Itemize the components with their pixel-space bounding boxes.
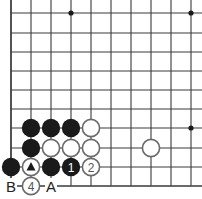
stones: 124	[2, 119, 160, 195]
star-point-icon	[188, 125, 193, 130]
white-stone-icon	[142, 139, 159, 156]
white-stone-4: 4	[22, 177, 39, 194]
black-stone	[42, 119, 60, 137]
white-stone-icon	[82, 119, 99, 136]
move-number: 4	[28, 180, 35, 194]
grid-lines	[11, 0, 202, 186]
black-stone-icon	[62, 119, 80, 137]
move-number: 1	[68, 161, 75, 175]
white-stone	[82, 139, 99, 156]
point-label-b: B	[6, 178, 16, 195]
black-stone-icon	[42, 119, 60, 137]
black-stone-icon	[2, 158, 20, 176]
black-stone-icon	[42, 158, 60, 176]
black-stone-icon	[22, 139, 40, 157]
white-stone	[142, 139, 159, 156]
point-label-a: A	[46, 178, 56, 195]
white-stone-icon	[82, 139, 99, 156]
black-stone	[22, 119, 40, 137]
white-stone	[42, 139, 59, 156]
white-stone	[62, 139, 79, 156]
white-stone-icon	[62, 139, 79, 156]
black-stone	[62, 119, 80, 137]
white-stone	[82, 119, 99, 136]
white-stone-icon	[42, 139, 59, 156]
black-stone	[42, 158, 60, 176]
white-stone-2: 2	[82, 158, 99, 175]
move-number: 2	[88, 161, 95, 175]
black-stone-1: 1	[62, 158, 80, 176]
black-stone	[2, 158, 20, 176]
black-stone	[22, 139, 40, 157]
black-stone-icon	[22, 119, 40, 137]
star-point-icon	[188, 10, 193, 15]
star-point-icon	[68, 10, 73, 15]
white-stone	[22, 158, 39, 175]
go-board: 124 BA	[0, 0, 202, 199]
